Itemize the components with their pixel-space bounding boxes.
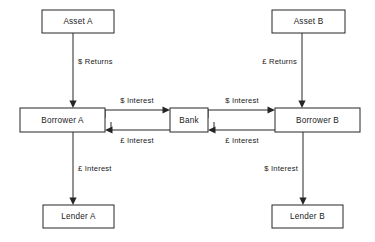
- arrow-head-icon-borrower-a-to-lender-a: [69, 198, 76, 206]
- arrow-head-icon-borrower-a-to-bank: [163, 107, 171, 114]
- arrow-head-icon-borrower-b-to-bank: [208, 127, 216, 134]
- edge-asset-a-to-borrower-a: $ Returns: [69, 33, 112, 108]
- flow-diagram-canvas: $ Returns £ Returns $ Interest £ Interes…: [0, 0, 375, 242]
- node-label-bank: Bank: [179, 116, 199, 125]
- arrow-head-icon-asset-a-to-borrower-a: [69, 101, 76, 109]
- arrow-head-icon-asset-b-to-borrower-b: [298, 101, 305, 109]
- edge-line-borrower-a-to-bank: [105, 110, 164, 118]
- edge-label-borrower-b-to-lender-b: $ Interest: [264, 164, 298, 173]
- edge-borrower-a-to-bank: $ Interest: [105, 96, 170, 118]
- edge-borrower-a-to-lender-a: £ Interest: [69, 132, 112, 205]
- edge-label-asset-b-to-borrower-b: £ Returns: [262, 57, 297, 66]
- node-bank[interactable]: Bank: [170, 108, 208, 132]
- arrow-head-icon-borrower-b-to-lender-b: [299, 198, 306, 206]
- node-asset-a[interactable]: Asset A: [42, 10, 114, 33]
- edge-bank-to-borrower-b: $ Interest: [208, 96, 275, 118]
- edge-bank-to-borrower-a: £ Interest: [105, 122, 170, 145]
- edge-label-bank-to-borrower-b: $ Interest: [225, 96, 259, 105]
- node-label-borrower-b: Borrower B: [296, 116, 339, 125]
- edge-label-asset-a-to-borrower-a: $ Returns: [78, 57, 113, 66]
- edge-label-bank-to-borrower-a: £ Interest: [120, 136, 154, 145]
- node-borrower-b[interactable]: Borrower B: [275, 108, 360, 132]
- node-lender-b[interactable]: Lender B: [272, 205, 343, 228]
- node-borrower-a[interactable]: Borrower A: [20, 108, 105, 132]
- edge-borrower-b-to-lender-b: $ Interest: [264, 132, 306, 205]
- node-label-asset-a: Asset A: [63, 17, 92, 26]
- edge-label-borrower-a-to-lender-a: £ Interest: [78, 164, 112, 173]
- arrow-head-icon-bank-to-borrower-a: [105, 127, 113, 134]
- node-label-lender-a: Lender A: [61, 212, 96, 221]
- edge-line-bank-to-borrower-b: [208, 110, 269, 118]
- node-label-asset-b: Asset B: [294, 17, 324, 26]
- edge-label-borrower-b-to-bank: £ Interest: [225, 136, 259, 145]
- node-asset-b[interactable]: Asset B: [272, 10, 345, 33]
- flow-diagram-svg: $ Returns £ Returns $ Interest £ Interes…: [0, 0, 375, 242]
- node-label-borrower-a: Borrower A: [41, 116, 84, 125]
- edge-label-borrower-a-to-bank: $ Interest: [120, 96, 154, 105]
- edge-line-bank-to-borrower-a: [111, 122, 170, 130]
- edge-borrower-b-to-bank: £ Interest: [208, 122, 275, 145]
- edge-line-borrower-b-to-bank: [214, 122, 275, 130]
- node-label-lender-b: Lender B: [290, 212, 325, 221]
- edge-asset-b-to-borrower-b: £ Returns: [262, 33, 305, 108]
- node-lender-a[interactable]: Lender A: [43, 205, 114, 228]
- arrow-head-icon-bank-to-borrower-b: [268, 107, 276, 114]
